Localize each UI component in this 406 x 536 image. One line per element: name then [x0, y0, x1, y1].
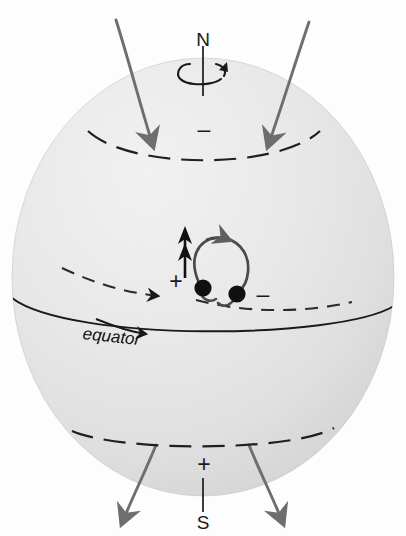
following-spot-polarity-sign: – — [257, 281, 270, 307]
north-pole-label: N — [196, 29, 210, 50]
sunspot-leading — [194, 279, 211, 296]
leading-spot-polarity-sign: + — [169, 268, 182, 294]
south-pole-label: S — [197, 512, 210, 533]
solar-magnetic-diagram: N S – + + – equator — [0, 0, 406, 536]
sunspot-following — [228, 285, 245, 302]
north-polarity-sign: – — [198, 116, 211, 142]
diagram-canvas: N S – + + – equator — [0, 0, 406, 536]
south-polarity-sign: + — [197, 451, 210, 477]
